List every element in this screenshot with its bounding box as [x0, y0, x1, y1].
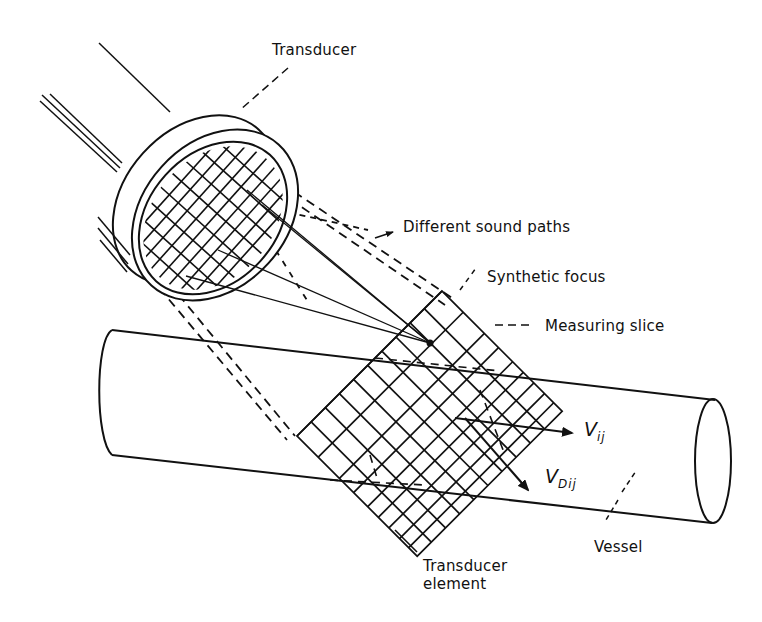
- label-transducer-element: Transducer element: [423, 557, 507, 593]
- vdij-subscript: Dij: [558, 477, 577, 491]
- vessel-leader: [622, 471, 636, 492]
- vij-subscript: ij: [597, 430, 606, 444]
- sound-paths-arrow: [375, 232, 393, 238]
- vessel-cylinder: [99, 330, 731, 523]
- synthetic-focus-leader: [460, 268, 476, 290]
- label-velocity-vdij: VDij: [545, 465, 577, 491]
- vessel-leader-lower: [606, 500, 618, 520]
- vij-main: V: [584, 418, 597, 440]
- transducer-leader: [240, 68, 288, 110]
- transducer-element-leader: [395, 530, 417, 552]
- measuring-slice-grid: [297, 291, 562, 556]
- label-measuring-slice: Measuring slice: [545, 317, 664, 335]
- label-transducer: Transducer: [272, 41, 356, 59]
- diagram-canvas: Transducer Different sound paths Synthet…: [0, 0, 762, 622]
- label-velocity-vij: Vij: [584, 418, 606, 444]
- synthetic-focus-point: [427, 340, 434, 347]
- vdij-main: V: [545, 465, 558, 487]
- label-different-sound-paths: Different sound paths: [403, 218, 570, 236]
- label-synthetic-focus: Synthetic focus: [487, 268, 606, 286]
- diagram-drawing: [0, 0, 762, 622]
- label-vessel: Vessel: [594, 538, 643, 556]
